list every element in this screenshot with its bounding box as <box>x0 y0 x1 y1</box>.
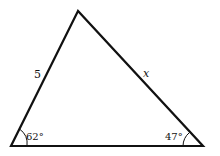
triangle-diagram: 5 x 62° 47° <box>0 0 220 156</box>
angle-arc-bottom-right <box>183 133 190 147</box>
bottom-left-angle-label: 62° <box>26 131 44 142</box>
bottom-right-angle-label: 47° <box>165 131 183 142</box>
left-side-label: 5 <box>34 68 41 81</box>
right-side-label: x <box>143 67 150 80</box>
